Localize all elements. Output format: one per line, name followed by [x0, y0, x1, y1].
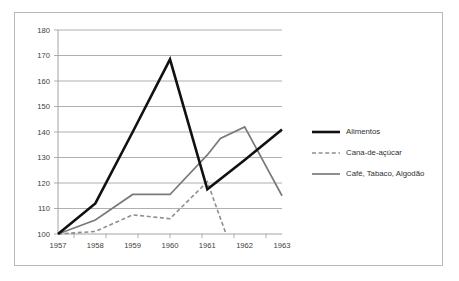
y-tick-label: 180: [37, 26, 50, 35]
y-tickmarks: [54, 30, 58, 234]
legend-label-cana-de-acucar: Cana-de-açúcar: [346, 148, 402, 157]
chart-frame: 180 170 160 150 140 130 120 110 100: [14, 12, 443, 266]
series-line-cana-de-acucar: [58, 182, 226, 234]
x-axis-labels: 1957 1958 1959 1960 1961 1962 1963: [50, 241, 291, 250]
y-axis-labels: 180 170 160 150 140 130 120 110 100: [37, 26, 50, 239]
x-tick-label: 1961: [199, 241, 216, 250]
line-chart: 180 170 160 150 140 130 120 110 100: [15, 13, 444, 267]
x-tick-label: 1962: [236, 241, 253, 250]
x-tick-label: 1959: [124, 241, 141, 250]
y-tick-label: 160: [37, 77, 50, 86]
x-tick-label: 1958: [87, 241, 104, 250]
legend-label-cafe-tabaco-algodao: Café, Tabaco, Algodão: [346, 169, 425, 178]
x-tickmarks: [74, 234, 266, 238]
y-tick-label: 130: [37, 153, 50, 162]
legend: Alimentos Cana-de-açúcar Café, Tabaco, A…: [312, 127, 425, 178]
y-tick-label: 120: [37, 179, 50, 188]
series-line-alimentos: [58, 59, 282, 234]
y-tick-label: 150: [37, 102, 50, 111]
x-tick-label: 1957: [50, 241, 67, 250]
y-tick-label: 170: [37, 51, 50, 60]
y-tick-label: 140: [37, 128, 50, 137]
y-tick-label: 110: [38, 204, 50, 213]
series-group: [58, 59, 282, 234]
legend-label-alimentos: Alimentos: [346, 127, 380, 136]
x-tick-label: 1963: [274, 241, 291, 250]
chart-screenshot: 180 170 160 150 140 130 120 110 100: [0, 0, 459, 281]
x-tick-label: 1960: [162, 241, 179, 250]
y-tick-label: 100: [37, 230, 50, 239]
